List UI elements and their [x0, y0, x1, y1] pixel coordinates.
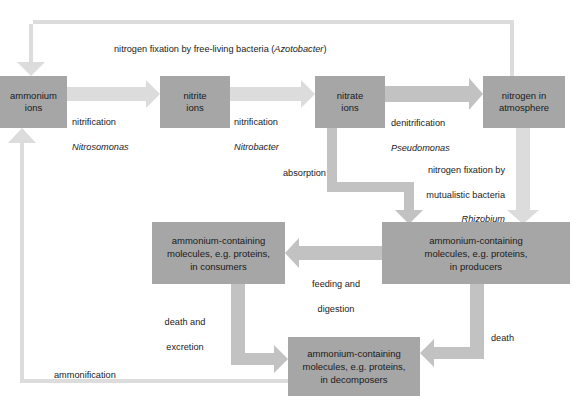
label-line-italic: Nitrosomonas — [72, 141, 129, 153]
arrow-death-excretion — [231, 284, 288, 373]
node-decomposers: ammonium-containing molecules, e.g. prot… — [288, 337, 420, 396]
label-line: ammonification — [54, 369, 116, 381]
node-label: ammonium ions — [10, 90, 57, 115]
node-ammonium-ions: ammonium ions — [0, 76, 67, 128]
label-free-living-fixation: nitrogen fixation by free-living bacteri… — [114, 31, 326, 55]
label-line-italic: Nitrobacter — [234, 141, 279, 153]
label-death: death — [491, 320, 514, 357]
label-nitrification-1: nitrification Nitrosomonas — [72, 104, 129, 165]
label-mutualistic-fixation: nitrogen fixation by mutualistic bacteri… — [400, 152, 505, 237]
label-nitrification-2: nitrification Nitrobacter — [234, 104, 279, 165]
node-label: nitrite ions — [183, 90, 206, 115]
label-feeding-digestion: feeding and digestion — [300, 266, 372, 327]
label-line: digestion — [300, 303, 372, 315]
label-line: feeding and — [300, 278, 372, 290]
node-label: ammonium-containing molecules, e.g. prot… — [425, 234, 528, 273]
label-line: denitrification — [391, 117, 450, 129]
arrow-death — [420, 284, 484, 367]
label-ammonification: ammonification — [54, 357, 116, 394]
node-nitrite-ions: nitrite ions — [160, 76, 230, 128]
label-text-tail: ) — [323, 44, 326, 54]
node-label: nitrogen in atmosphere — [499, 90, 549, 115]
label-absorption: absorption — [283, 155, 326, 192]
nitrogen-cycle-diagram: ammonium ions nitrite ions nitrate ions … — [0, 0, 576, 401]
label-line: mutualistic bacteria — [400, 189, 505, 201]
label-line: death and — [148, 316, 222, 328]
label-text-italic: Azotobacter — [274, 44, 323, 54]
label-line-italic: Rhizobium — [400, 213, 505, 225]
label-line: nitrogen fixation by — [400, 164, 505, 176]
node-consumers: ammonium-containing molecules, e.g. prot… — [152, 222, 285, 284]
arrow-mutualistic-fixation — [507, 128, 539, 224]
arrow-feeding-digestion — [285, 238, 382, 268]
node-label: ammonium-containing molecules, e.g. prot… — [303, 347, 406, 386]
node-label: ammonium-containing molecules, e.g. prot… — [167, 234, 270, 273]
label-line: absorption — [283, 167, 326, 179]
node-nitrate-ions: nitrate ions — [315, 76, 385, 128]
label-line: nitrification — [234, 116, 279, 128]
label-line: death — [491, 332, 514, 344]
node-nitrogen-atmosphere: nitrogen in atmosphere — [483, 76, 565, 128]
label-death-excretion: death and excretion — [148, 304, 222, 365]
label-line: nitrification — [72, 116, 129, 128]
label-text: nitrogen fixation by free-living bacteri… — [114, 44, 274, 54]
label-line: excretion — [148, 341, 222, 353]
node-label: nitrate ions — [337, 90, 363, 115]
